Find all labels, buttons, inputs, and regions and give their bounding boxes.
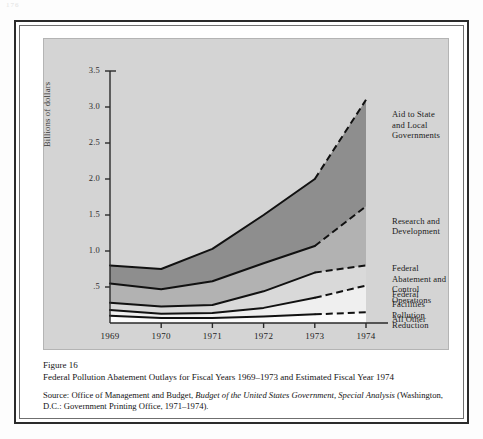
figure-caption: Figure 16 Federal Pollution Abatement Ou…: [43, 360, 457, 413]
y-axis-tick-label: 1.0: [70, 245, 100, 255]
stacked-area-chart: [44, 39, 448, 349]
series-label-aid-to-state-and-local-governments: Aid to State and Local Governments: [392, 109, 448, 140]
figure-source: Source: Office of Management and Budget,…: [43, 390, 457, 413]
figure-frame-inner-rule: Billions of dollars .51.01.52.02.53.03.5…: [19, 25, 464, 419]
page-folio: 176: [6, 1, 20, 9]
y-axis-tick-label: 2.5: [70, 137, 100, 147]
x-axis-tick-label: 1970: [138, 331, 184, 341]
chart-panel: Billions of dollars .51.01.52.02.53.03.5…: [43, 38, 449, 350]
y-axis-tick-label: 1.5: [70, 209, 100, 219]
y-axis-tick-label: 3.5: [70, 65, 100, 75]
figure-title: Federal Pollution Abatement Outlays for …: [43, 372, 457, 384]
source-prefix: Source: Office of Management and Budget,: [43, 390, 195, 400]
x-axis-tick-label: 1971: [189, 331, 235, 341]
y-axis-tick-label: 3.0: [70, 101, 100, 111]
series-label-federal-abatement-and-control-operations: Federal Abatement and Control Operations: [392, 263, 448, 305]
source-italic-analysis: Analysis: [366, 390, 395, 400]
figure-frame: Billions of dollars .51.01.52.02.53.03.5…: [14, 20, 469, 424]
x-axis-tick-label: 1974: [343, 331, 389, 341]
figure-number: Figure 16: [43, 360, 457, 372]
figure-page: 176 Billions of dollars .51.01.52.02.53.…: [0, 0, 483, 439]
source-italic-title: Budget of the United States Government, …: [195, 390, 363, 400]
x-axis-tick-label: 1973: [292, 331, 338, 341]
y-axis-title: Billions of dollars: [42, 82, 52, 147]
x-axis-tick-label: 1972: [241, 331, 287, 341]
y-axis-tick-label: .5: [70, 281, 100, 291]
y-axis-tick-label: 2.0: [70, 173, 100, 183]
series-label-research-and-development: Research and Development: [392, 216, 440, 237]
x-axis-tick-label: 1969: [87, 331, 133, 341]
